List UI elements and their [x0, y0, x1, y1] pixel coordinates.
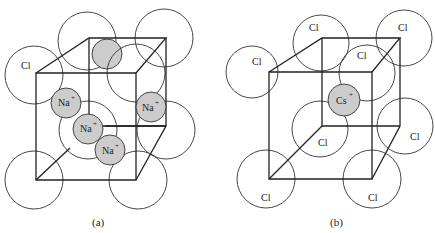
caption-b: (b): [330, 216, 343, 229]
cl-label: Cl: [21, 60, 31, 71]
na-label-3: Na: [80, 123, 92, 134]
cl-label-3: Cl: [398, 22, 408, 33]
cl-label-7: Cl: [261, 192, 271, 203]
panel-b-cscl: Cl Cl Cl Cl Cl Cl Cl Cl Cs + (b): [226, 10, 433, 229]
cube-top-edges: [269, 38, 400, 72]
cl-label-4: Cl: [357, 50, 367, 61]
cs-label: Cs: [336, 95, 347, 106]
cube-back-diagonal: [36, 148, 70, 180]
svg-text:+: +: [155, 99, 159, 107]
cl-label-5: Cl: [318, 137, 328, 148]
cl-label-2: Cl: [309, 22, 319, 33]
crystal-structures-figure: Cl Na + Na + Na + Na + (a) Cl Cl Cl Cl C…: [0, 0, 435, 233]
svg-text:+: +: [71, 94, 75, 102]
cl-label-6: Cl: [410, 131, 420, 142]
svg-text:+: +: [93, 120, 97, 128]
svg-text:+: +: [349, 91, 353, 99]
panel-a-nacl: Cl Na + Na + Na + Na + (a): [5, 9, 195, 229]
svg-text:+: +: [115, 142, 119, 150]
na-label-4: Na: [102, 145, 114, 156]
na-back-top: [92, 39, 122, 69]
na-label-2: Na: [142, 102, 154, 113]
caption-a: (a): [92, 216, 105, 229]
cl-label-8: Cl: [368, 192, 378, 203]
na-label-1: Na: [58, 97, 70, 108]
cl-label-1: Cl: [252, 56, 262, 67]
